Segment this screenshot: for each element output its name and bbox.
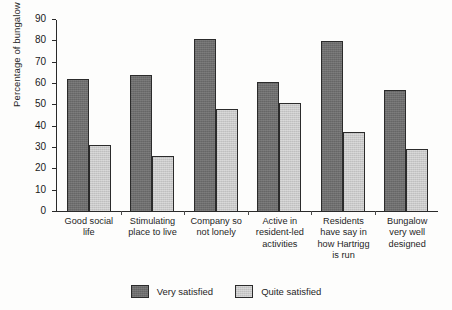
category-label-line: Stimulating xyxy=(122,216,184,227)
y-tick-label: 90 xyxy=(35,14,46,24)
y-tick: 90 xyxy=(52,19,56,20)
category-label-line: Active in xyxy=(249,216,311,227)
group-separator-tick xyxy=(184,211,185,215)
category-label-line: resident-led xyxy=(249,227,311,238)
category-label: Company sonot lonely xyxy=(184,216,248,262)
legend-item: Quite satisfied xyxy=(235,285,321,298)
legend-swatch xyxy=(235,285,253,298)
bar xyxy=(384,90,406,211)
y-tick-label: 20 xyxy=(35,163,46,173)
bar-chart: Percentage of bungalow residents 0102030… xyxy=(0,0,452,310)
bar xyxy=(343,132,365,211)
y-tick: 20 xyxy=(52,168,56,169)
bar-group xyxy=(184,20,248,211)
category-label-line: Bungalow xyxy=(376,216,438,227)
y-tick: 10 xyxy=(52,190,56,191)
y-tick: 0 xyxy=(52,211,56,212)
y-tick-label: 40 xyxy=(35,121,46,131)
x-axis-category-labels: Good sociallifeStimulatingplace to liveC… xyxy=(57,216,439,262)
bar-group xyxy=(121,20,185,211)
category-label-line: designed xyxy=(376,239,438,250)
plot-area: 0102030405060708090 xyxy=(56,20,438,212)
y-tick-label: 0 xyxy=(40,206,46,216)
bar-group xyxy=(311,20,375,211)
legend-swatch xyxy=(131,285,149,298)
y-tick: 60 xyxy=(52,83,56,84)
y-tick-label: 70 xyxy=(35,57,46,67)
category-label-line: place to live xyxy=(122,227,184,238)
category-label-line: have say in xyxy=(313,227,375,238)
bar xyxy=(216,109,238,211)
bar xyxy=(321,41,343,211)
group-separator-tick xyxy=(311,211,312,215)
y-tick: 70 xyxy=(52,62,56,63)
y-tick: 50 xyxy=(52,104,56,105)
legend-label: Very satisfied xyxy=(157,286,214,297)
y-tick-label: 10 xyxy=(35,185,46,195)
bar xyxy=(406,149,428,211)
bar xyxy=(152,156,174,211)
category-label-line: activities xyxy=(249,239,311,250)
category-label-line: life xyxy=(58,227,120,238)
bar xyxy=(130,75,152,211)
category-label: Active inresident-ledactivities xyxy=(248,216,312,262)
bar-group xyxy=(375,20,439,211)
bar xyxy=(89,145,111,211)
group-separator-tick xyxy=(248,211,249,215)
chart-legend: Very satisfiedQuite satisfied xyxy=(0,285,452,298)
bar-groups xyxy=(57,20,438,211)
category-label-line: Residents xyxy=(313,216,375,227)
y-tick-label: 60 xyxy=(35,78,46,88)
y-axis-title: Percentage of bungalow residents xyxy=(11,0,22,134)
y-tick: 30 xyxy=(52,147,56,148)
category-label-line: not lonely xyxy=(185,227,247,238)
y-tick: 80 xyxy=(52,40,56,41)
category-label: Good sociallife xyxy=(57,216,121,262)
category-label-line: how Hartrigg xyxy=(313,239,375,250)
group-separator-tick xyxy=(121,211,122,215)
legend-item: Very satisfied xyxy=(131,285,214,298)
y-tick: 40 xyxy=(52,126,56,127)
category-label-line: very well xyxy=(376,227,438,238)
legend-label: Quite satisfied xyxy=(261,286,321,297)
category-label: Stimulatingplace to live xyxy=(121,216,185,262)
category-label-line: Company so xyxy=(185,216,247,227)
y-tick-label: 80 xyxy=(35,35,46,45)
category-label-line: is run xyxy=(313,250,375,261)
category-label: Bungalowvery welldesigned xyxy=(375,216,439,262)
y-tick-label: 30 xyxy=(35,142,46,152)
group-separator-tick xyxy=(375,211,376,215)
category-label-line: Good social xyxy=(58,216,120,227)
bar-group xyxy=(248,20,312,211)
bar xyxy=(67,79,89,211)
y-tick-label: 50 xyxy=(35,99,46,109)
bar xyxy=(257,82,279,211)
bar xyxy=(194,39,216,211)
bar-group xyxy=(57,20,121,211)
category-label: Residentshave say inhow Hartriggis run xyxy=(312,216,376,262)
bar xyxy=(279,103,301,211)
